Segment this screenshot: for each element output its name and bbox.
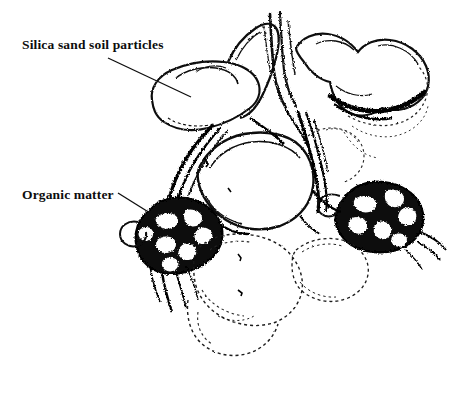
label-organic-matter: Organic matter	[22, 188, 114, 202]
soil-particle-figure: Silica sand soil particles Organic matte…	[0, 0, 462, 395]
label-silica-sand-soil-particles: Silica sand soil particles	[22, 38, 164, 52]
